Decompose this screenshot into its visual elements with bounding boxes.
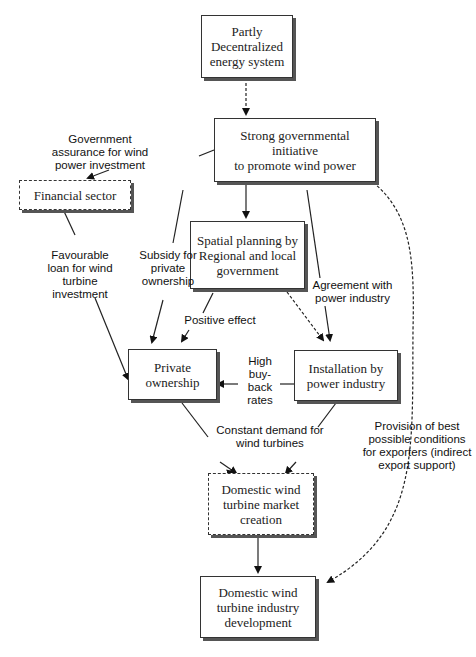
label-positive: Positive effect: [180, 314, 260, 327]
edge-government-assurance: [199, 150, 214, 156]
label-demand: Constant demand for wind turbines: [210, 424, 330, 450]
node-installation: Installation by power industry: [294, 350, 398, 401]
node-financial: Financial sector: [19, 180, 131, 210]
edge-spatial-positive: [203, 293, 213, 313]
edge-agreement-installation: [325, 306, 330, 340]
node-market: Domestic wind turbine market creation: [208, 473, 314, 535]
edge-government-agreement: [307, 190, 320, 278]
node-industry: Domestic wind turbine industry developme…: [200, 576, 316, 638]
edge-positive-private: [182, 330, 189, 341]
label-loan: Favourable loan for wind turbine investm…: [40, 249, 120, 301]
node-decentralized: Partly Decentralized energy system: [201, 15, 293, 78]
node-private: Private ownership: [128, 349, 217, 400]
label-export: Provision of best possible conditions fo…: [358, 420, 476, 472]
edge-government-subsidy: [173, 190, 183, 243]
label-subsidy: Subsidy for private ownership: [128, 249, 208, 288]
edge-demand-market-3: [286, 462, 296, 473]
label-buyback: High buy- back rates: [240, 355, 280, 407]
edge-financial-loan: [62, 207, 75, 235]
edge-private-demand: [182, 403, 208, 437]
label-agreement: Agreement with power industry: [305, 279, 400, 305]
edge-loan-private: [95, 298, 128, 379]
label-assurance: Government assurance for wind power inve…: [40, 133, 160, 172]
node-government: Strong governmental initiative to promot…: [214, 118, 376, 182]
edge-demand-market-2: [220, 462, 236, 473]
edge-subsidy-private: [152, 300, 163, 342]
edges-layer: [0, 0, 476, 657]
diagram-canvas: Partly Decentralized energy system Stron…: [0, 0, 476, 657]
